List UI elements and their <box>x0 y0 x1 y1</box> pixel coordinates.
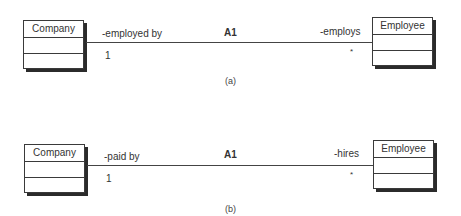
class-name: Employee <box>374 141 433 158</box>
class-company[interactable]: Company <box>24 144 85 193</box>
figure-caption: (b) <box>225 204 236 214</box>
association-name: A1 <box>224 149 237 160</box>
uml-diagram-b: Company -paid by 1 A1 -hires * Employee … <box>0 0 461 216</box>
class-attributes <box>25 162 84 178</box>
multiplicity-right: * <box>350 170 353 179</box>
class-name: Company <box>25 145 84 162</box>
association-line[interactable] <box>87 165 373 166</box>
class-employee[interactable]: Employee <box>373 140 434 189</box>
role-right: -hires <box>334 148 359 159</box>
class-operations <box>25 178 84 192</box>
role-left: -paid by <box>104 151 140 162</box>
class-operations <box>374 174 433 188</box>
multiplicity-left: 1 <box>106 173 112 184</box>
class-attributes <box>374 158 433 174</box>
